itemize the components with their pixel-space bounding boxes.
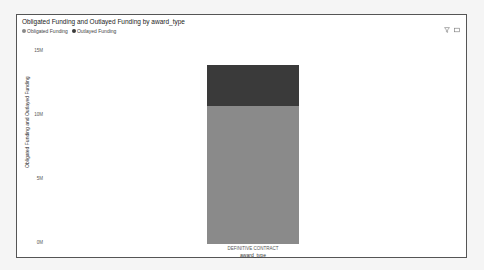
- filter-icon[interactable]: [444, 19, 450, 37]
- y-tick: 10M: [27, 112, 43, 117]
- y-tick: 0M: [27, 240, 43, 245]
- legend-item-outlayed[interactable]: Outlayed Funding: [72, 28, 116, 34]
- x-axis-label: award_type: [187, 252, 319, 258]
- legend-label: Obligated Funding: [27, 28, 68, 34]
- visual-header-icons: [444, 19, 460, 37]
- bar-obligated-funding[interactable]: [207, 106, 299, 244]
- y-axis-label: Obligated Funding and Outlayed Funding: [24, 88, 30, 168]
- legend-label: Outlayed Funding: [77, 28, 116, 34]
- focus-mode-icon[interactable]: [454, 19, 460, 37]
- y-tick: 5M: [27, 176, 43, 181]
- chart-legend: Obligated Funding Outlayed Funding: [22, 28, 116, 34]
- legend-item-obligated[interactable]: Obligated Funding: [22, 28, 68, 34]
- y-tick: 15M: [27, 48, 43, 53]
- x-category-label: DEFINITIVE CONTRACT: [187, 246, 319, 251]
- chart-title: Obligated Funding and Outlayed Funding b…: [22, 18, 185, 25]
- legend-swatch-obligated: [22, 29, 26, 33]
- bar-outlayed-funding[interactable]: [207, 65, 299, 106]
- legend-swatch-outlayed: [72, 29, 76, 33]
- chart-visual[interactable]: Obligated Funding and Outlayed Funding b…: [16, 14, 467, 258]
